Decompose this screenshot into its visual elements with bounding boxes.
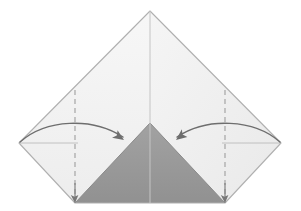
origami-diagram [0, 0, 301, 211]
origami-figure-canvas [0, 0, 301, 211]
